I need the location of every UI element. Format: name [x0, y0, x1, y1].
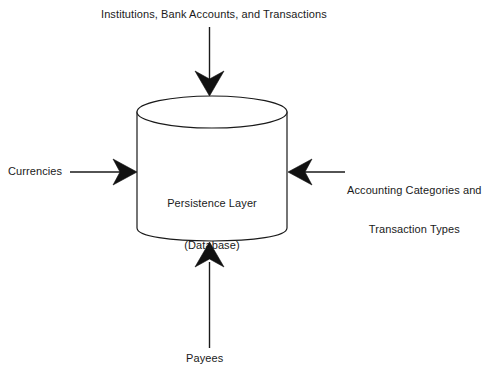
- database-node-label-line2: (Database): [152, 238, 272, 252]
- database-node-label: Persistence Layer (Database): [152, 168, 272, 280]
- database-node-label-line1: Persistence Layer: [152, 196, 272, 210]
- bottom-input-label: Payees: [186, 352, 223, 365]
- diagram-canvas: Institutions, Bank Accounts, and Transac…: [0, 0, 496, 378]
- arrow-left-icon: [288, 159, 345, 185]
- left-input-label: Currencies: [8, 165, 62, 178]
- right-input-label-line1: Accounting Categories and: [347, 184, 482, 197]
- arrow-right-icon: [70, 159, 137, 185]
- right-input-label: Accounting Categories and Transaction Ty…: [347, 158, 482, 262]
- cylinder-top-ellipse: [137, 96, 287, 128]
- right-input-label-line2: Transaction Types: [347, 223, 482, 236]
- top-input-label: Institutions, Bank Accounts, and Transac…: [101, 8, 327, 21]
- arrow-down-icon: [195, 27, 224, 96]
